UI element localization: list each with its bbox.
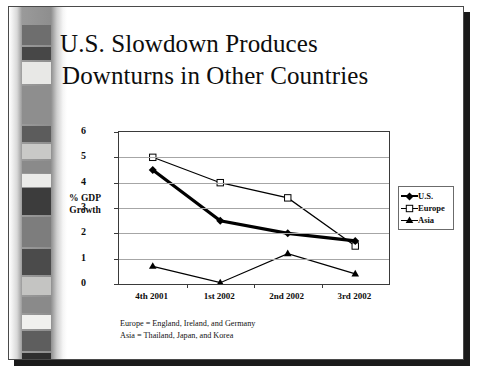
filled-triangle-marker: [406, 216, 414, 223]
y-tick-label: 6: [66, 126, 86, 136]
open-square-marker: [285, 195, 291, 201]
y-tick-label: 3: [66, 202, 86, 212]
open-square-marker: [401, 203, 418, 214]
legend-label: U.S.: [418, 191, 433, 201]
gridline: [119, 233, 389, 234]
footnote-europe: Europe = England, Ireland, and Germany: [120, 318, 255, 330]
x-tickmark: [187, 284, 188, 288]
legend-item-asia[interactable]: Asia: [401, 214, 450, 226]
y-tick-label: 5: [66, 151, 86, 161]
x-tick-label: 4th 2001: [117, 291, 187, 301]
legend-marker-glyph: [401, 203, 418, 214]
x-tick-label: 2nd 2002: [252, 291, 322, 301]
filled-diamond-marker: [401, 191, 418, 202]
y-tickmark: [114, 259, 118, 260]
y-tick-label: 2: [66, 227, 86, 237]
filled-triangle-marker: [284, 250, 292, 257]
open-square-marker: [406, 205, 412, 211]
legend-label: Asia: [418, 215, 434, 225]
legend-item-us[interactable]: U.S.: [401, 190, 450, 202]
legend-marker-glyph: [401, 191, 418, 202]
filled-diamond-marker: [406, 192, 414, 200]
y-tickmark: [114, 284, 118, 285]
y-tickmark: [114, 183, 118, 184]
y-tickmark: [114, 233, 118, 234]
slide-root: U.S. Slowdown Produces Downturns in Othe…: [0, 0, 478, 374]
series-line-us: [153, 170, 355, 241]
y-tick-label: 0: [66, 278, 86, 288]
chart-legend: U.S.EuropeAsia: [398, 186, 454, 230]
footnote-asia: Asia = Thailand, Japan, and Korea: [120, 330, 255, 342]
legend-marker-glyph: [401, 215, 418, 226]
y-tickmark: [114, 157, 118, 158]
y-tickmark: [114, 208, 118, 209]
y-tickmark: [114, 132, 118, 133]
x-tick-label: 1st 2002: [184, 291, 254, 301]
plot-area: [118, 131, 390, 285]
gridline: [119, 157, 389, 158]
x-tick-label: 3rd 2002: [319, 291, 389, 301]
filled-triangle-marker: [149, 262, 157, 269]
legend-label: Europe: [418, 203, 445, 213]
y-tick-label: 1: [66, 253, 86, 263]
gridline: [119, 183, 389, 184]
gridline: [119, 259, 389, 260]
legend-item-europe[interactable]: Europe: [401, 202, 450, 214]
gridline: [119, 208, 389, 209]
filled-triangle-marker: [401, 215, 418, 226]
series-line-asia: [153, 254, 355, 283]
x-tickmark: [322, 284, 323, 288]
footnote-block: Europe = England, Ireland, and Germany A…: [120, 318, 255, 342]
x-tickmark: [254, 284, 255, 288]
y-tick-label: 4: [66, 177, 86, 187]
